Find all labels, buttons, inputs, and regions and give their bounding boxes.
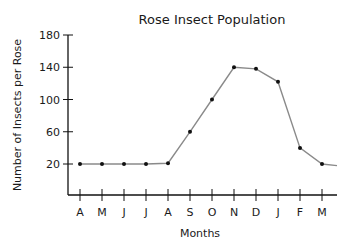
y-tick-label: 180 (39, 29, 60, 42)
y-tick-label: 100 (39, 94, 60, 107)
x-axis-ticks: AMJJASONDJFM (76, 189, 327, 219)
x-tick-label: S (187, 206, 194, 219)
axes (68, 35, 337, 195)
data-point (78, 162, 82, 166)
x-tick-label: M (97, 206, 107, 219)
chart-container: Rose Insect Population Number of Insects… (0, 0, 355, 251)
x-tick-label: O (208, 206, 217, 219)
data-point (166, 161, 170, 165)
chart-title: Rose Insect Population (139, 12, 286, 27)
y-tick-label: 20 (46, 158, 60, 171)
data-point (254, 67, 258, 71)
series-line (80, 67, 337, 165)
data-point (100, 162, 104, 166)
data-point (122, 162, 126, 166)
x-tick-label: N (230, 206, 238, 219)
data-series (78, 65, 337, 166)
y-axis-label: Number of Insects per Rose (11, 39, 24, 191)
data-point (144, 162, 148, 166)
x-axis-label: Months (180, 227, 220, 240)
x-tick-label: D (252, 206, 260, 219)
x-tick-label: M (317, 206, 327, 219)
x-tick-label: F (297, 206, 303, 219)
x-tick-label: A (76, 206, 84, 219)
y-tick-label: 140 (39, 61, 60, 74)
data-point (320, 162, 324, 166)
data-point (210, 98, 214, 102)
y-tick-label: 60 (46, 126, 60, 139)
data-point (298, 146, 302, 150)
x-tick-label: J (275, 206, 279, 219)
data-point (276, 80, 280, 84)
line-chart: Rose Insect Population Number of Insects… (0, 0, 355, 251)
x-tick-label: J (121, 206, 125, 219)
x-tick-label: A (164, 206, 172, 219)
data-point (232, 65, 236, 69)
x-tick-label: J (143, 206, 147, 219)
data-point (188, 130, 192, 134)
